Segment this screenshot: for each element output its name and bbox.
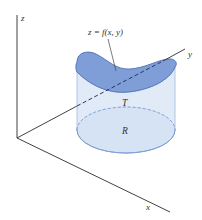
- y-axis-front: [17, 106, 77, 138]
- surface-label: z = f(x, y): [87, 27, 123, 37]
- solid-t-label: T: [122, 98, 128, 108]
- x-axis-label: x: [145, 202, 150, 212]
- y-axis-back: [163, 49, 185, 61]
- region-r-label: R: [121, 126, 128, 136]
- solid-region-diagram: z x y z = f(x, y) T R: [0, 0, 202, 220]
- y-axis-label: y: [187, 49, 192, 59]
- z-axis-label: z: [20, 13, 25, 23]
